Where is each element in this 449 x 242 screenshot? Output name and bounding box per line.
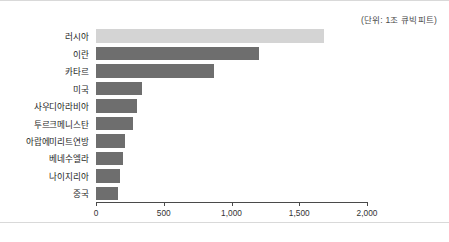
bar — [96, 64, 214, 77]
unit-note: (단위: 1조 큐빅피트) — [361, 13, 437, 25]
category-label: 러시아 — [65, 30, 89, 42]
bar — [96, 82, 142, 95]
x-axis-tick-label: 500 — [157, 208, 171, 218]
bar-row: 나이지리아 — [0, 168, 449, 184]
bar — [96, 152, 123, 165]
x-axis-tick-label: 2,000 — [357, 208, 378, 218]
chart-figure: (단위: 1조 큐빅피트) 러시아이란카타르미국사우디아라비아투르크메니스탄아랍… — [0, 0, 449, 242]
bar — [96, 99, 137, 112]
category-label: 카타르 — [65, 65, 89, 77]
x-axis-tick-label: 1,500 — [289, 208, 310, 218]
bar — [96, 29, 324, 42]
bar-row: 카타르 — [0, 63, 449, 79]
bar-row: 아랍에미리트연방 — [0, 133, 449, 149]
figure-top-divider — [0, 0, 449, 1]
plot-area: 러시아이란카타르미국사우디아라비아투르크메니스탄아랍에미리트연방베네수엘라나이지… — [0, 28, 449, 203]
x-axis-tick-label: 0 — [94, 208, 99, 218]
category-label: 사우디아라비아 — [34, 100, 89, 112]
bar — [96, 187, 118, 200]
bar — [96, 117, 133, 130]
x-axis-tick — [299, 202, 300, 206]
bar-row: 이란 — [0, 45, 449, 61]
bar-row: 미국 — [0, 80, 449, 96]
bar-row: 러시아 — [0, 28, 449, 44]
category-label: 투르크메니스탄 — [34, 118, 89, 130]
bar — [96, 47, 259, 60]
bar-row: 사우디아라비아 — [0, 98, 449, 114]
x-axis-tick — [232, 202, 233, 206]
bar-row: 투르크메니스탄 — [0, 115, 449, 131]
category-label: 아랍에미리트연방 — [26, 135, 89, 147]
category-label: 이란 — [73, 48, 89, 60]
figure-bottom-divider — [0, 222, 449, 223]
bar — [96, 169, 120, 182]
category-label: 베네수엘라 — [49, 152, 89, 164]
bar — [96, 134, 125, 147]
x-axis-tick — [164, 202, 165, 206]
bar-series: 러시아이란카타르미국사우디아라비아투르크메니스탄아랍에미리트연방베네수엘라나이지… — [0, 28, 449, 203]
category-label: 미국 — [73, 83, 89, 95]
bar-row: 중국 — [0, 185, 449, 201]
x-axis-tick — [96, 202, 97, 206]
category-label: 나이지리아 — [49, 170, 89, 182]
x-axis-tick-label: 1,000 — [221, 208, 242, 218]
x-axis-tick — [367, 202, 368, 206]
bar-row: 베네수엘라 — [0, 150, 449, 166]
category-label: 중국 — [73, 187, 89, 199]
